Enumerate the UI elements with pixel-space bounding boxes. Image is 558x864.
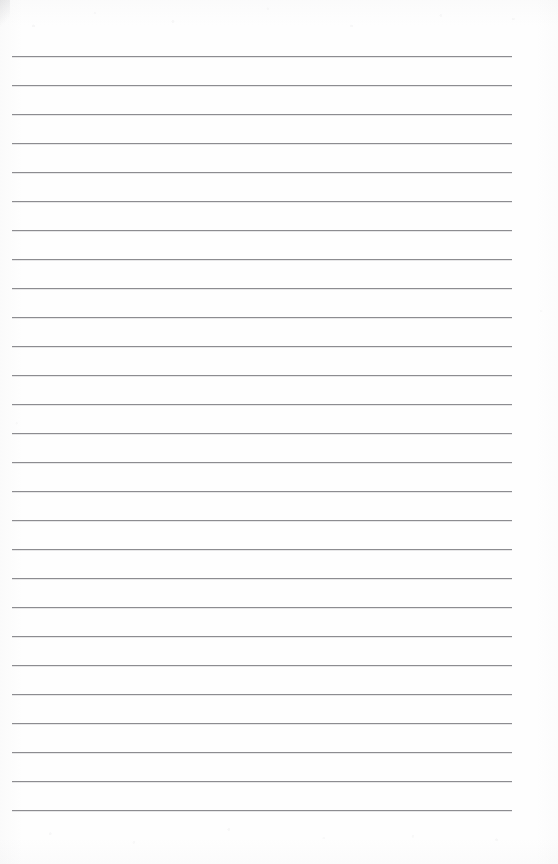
- rule-line: [12, 520, 512, 521]
- rule-line: [12, 781, 512, 782]
- rule-line: [12, 607, 512, 608]
- rule-line: [12, 201, 512, 202]
- rule-line: [12, 56, 512, 57]
- rule-line: [12, 317, 512, 318]
- rule-line: [12, 85, 512, 86]
- rule-line: [12, 375, 512, 376]
- rule-line: [12, 694, 512, 695]
- rule-line: [12, 404, 512, 405]
- paper-texture-overlay: [0, 0, 558, 864]
- rule-line: [12, 346, 512, 347]
- rule-line: [12, 549, 512, 550]
- rule-line: [12, 665, 512, 666]
- rule-line: [12, 636, 512, 637]
- rule-line: [12, 288, 512, 289]
- rule-line: [12, 491, 512, 492]
- rule-line: [12, 114, 512, 115]
- rule-line: [12, 230, 512, 231]
- scan-vignette-overlay: [0, 0, 558, 864]
- scan-smudge-mark: [0, 0, 10, 30]
- rule-line: [12, 462, 512, 463]
- rule-line: [12, 143, 512, 144]
- rule-line: [12, 752, 512, 753]
- rule-line: [12, 433, 512, 434]
- rule-line: [12, 172, 512, 173]
- rule-line: [12, 810, 512, 811]
- rule-line: [12, 259, 512, 260]
- rule-line: [12, 578, 512, 579]
- notebook-page: [0, 0, 558, 864]
- rule-line: [12, 723, 512, 724]
